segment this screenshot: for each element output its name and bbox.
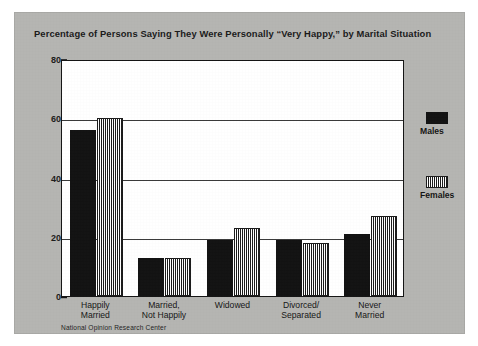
- bar-males-widowed: [207, 240, 233, 296]
- x-axis-labels: HappilyMarriedMarried,Not HappilyWidowed…: [61, 300, 404, 326]
- bar-males-divorced-separated: [276, 240, 302, 296]
- y-tick-label: 80: [33, 55, 61, 65]
- y-tick-label: 40: [33, 174, 61, 184]
- legend-entry-females[interactable]: Females: [418, 176, 478, 200]
- bar-females-happily-married: [97, 118, 123, 296]
- bar-females-married-not-happily: [165, 258, 191, 297]
- plot-area: [61, 60, 404, 297]
- legend-entry-males[interactable]: Males: [418, 112, 478, 136]
- legend-label: Males: [418, 126, 478, 136]
- legend-label: Females: [418, 190, 478, 200]
- chart-figure: Percentage of Persons Saying They Were P…: [0, 0, 478, 346]
- bar-group: [138, 61, 191, 296]
- bar-females-divorced-separated: [303, 243, 329, 296]
- source-note: National Opinion Research Center: [61, 324, 166, 331]
- bar-females-widowed: [234, 228, 260, 296]
- bar-females-never-married: [371, 216, 397, 296]
- solid-black-swatch-icon: [426, 112, 448, 124]
- bar-group: [207, 61, 260, 296]
- bar-males-married-not-happily: [138, 258, 164, 297]
- x-category-line: Married: [323, 310, 416, 320]
- x-category-label: NeverMarried: [323, 300, 416, 321]
- x-category-line: Never: [323, 300, 416, 310]
- chart-title: Percentage of Persons Saying They Were P…: [34, 28, 454, 39]
- y-tick-label: 60: [33, 114, 61, 124]
- bar-group: [344, 61, 397, 296]
- y-axis: 020406080: [26, 60, 61, 297]
- y-tick-label: 20: [33, 233, 61, 243]
- figure-panel: Percentage of Persons Saying They Were P…: [14, 12, 465, 334]
- x-category-line: Not Happily: [118, 310, 211, 320]
- bar-males-never-married: [344, 234, 370, 296]
- bar-group: [276, 61, 329, 296]
- bar-males-happily-married: [70, 130, 96, 296]
- hatched-swatch-icon: [426, 176, 448, 188]
- bar-group: [70, 61, 123, 296]
